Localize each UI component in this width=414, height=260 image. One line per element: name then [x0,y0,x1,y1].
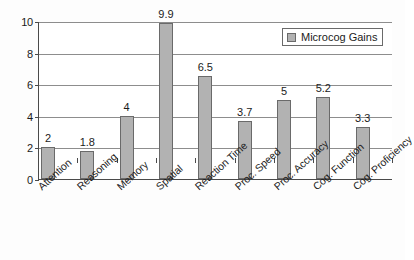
y-tick-label: 10 [3,17,33,28]
bar-slot: 1.8 [80,22,94,179]
y-tick-label: 8 [3,49,33,60]
y-tick-label: 4 [3,112,33,123]
y-tick-label: 0 [3,175,33,186]
y-tick-label: 6 [3,80,33,91]
chart-legend: Microcog Gains [282,28,383,46]
bar-slot: 6.5 [198,22,212,179]
bar-value-label: 5.2 [316,83,331,94]
bar[interactable] [198,76,212,179]
y-tick-mark [35,148,39,149]
legend-label: Microcog Gains [301,32,377,43]
x-tick-mark [77,158,78,163]
x-tick-mark [195,158,196,163]
bar-value-label: 4 [124,102,130,113]
y-tick-label: 2 [3,143,33,154]
bar-value-label: 5 [281,86,287,97]
bar-value-label: 3.7 [237,107,252,118]
x-tick-mark [156,158,157,163]
bar-value-label: 1.8 [80,137,95,148]
bar-value-label: 6.5 [198,62,213,73]
bar-value-label: 9.9 [158,9,173,20]
bar-slot: 2 [41,22,55,179]
bar[interactable] [159,23,173,179]
bar-slot: 4 [120,22,134,179]
bar-slot: 9.9 [159,22,173,179]
y-tick-mark [35,22,39,23]
y-tick-mark [35,54,39,55]
y-tick-mark [35,117,39,118]
y-tick-mark [35,85,39,86]
bar-value-label: 2 [45,133,51,144]
bar-value-label: 3.3 [355,113,370,124]
legend-swatch-icon [287,33,296,42]
